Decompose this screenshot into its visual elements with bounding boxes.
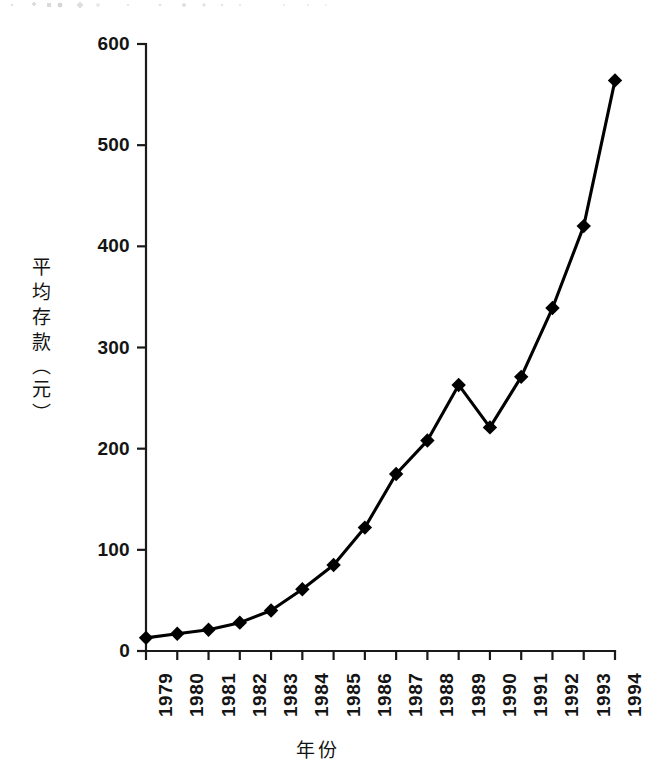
x-axis-ticks <box>146 651 615 660</box>
chart-figure: 0100200300400500600 19791980198119821983… <box>0 0 671 773</box>
y-axis-title-char: ︶ <box>26 402 56 424</box>
y-axis-tick-label: 300 <box>52 337 130 359</box>
y-axis-title-char: 元 <box>26 377 56 402</box>
data-point-marker <box>233 615 247 629</box>
data-point-marker <box>545 301 559 315</box>
y-axis-title-char: 均 <box>26 280 56 305</box>
x-axis-tick-label: 1986 <box>374 673 396 717</box>
x-axis-tick-label: 1983 <box>280 673 302 717</box>
x-axis-tick-label: 1981 <box>218 673 240 717</box>
y-axis-title-char: ︵ <box>26 355 56 377</box>
y-axis-title-char: 平 <box>26 255 56 280</box>
x-axis-tick-label: 1987 <box>405 673 427 717</box>
x-axis-tick-label: 1984 <box>311 673 333 717</box>
data-point-marker <box>139 631 153 645</box>
y-axis-title: 平均存款︵元︶ <box>26 255 56 424</box>
y-axis-tick-label: 100 <box>52 539 130 561</box>
y-axis-tick-label: 400 <box>52 235 130 257</box>
y-axis-tick-label: 0 <box>52 640 130 662</box>
data-point-markers <box>139 73 622 645</box>
data-point-marker <box>577 219 591 233</box>
y-axis-ticks <box>137 44 146 651</box>
y-axis-title-char: 款 <box>26 330 56 355</box>
x-axis-tick-label: 1989 <box>468 673 490 717</box>
y-axis-tick-label: 600 <box>52 33 130 55</box>
y-axis-title-char: 存 <box>26 305 56 330</box>
y-axis-tick-label: 200 <box>52 438 130 460</box>
x-axis-tick-label: 1979 <box>155 673 177 717</box>
x-axis-title: 年份 <box>296 735 340 762</box>
y-axis-tick-label: 500 <box>52 134 130 156</box>
data-point-marker <box>514 370 528 384</box>
x-axis-tick-label: 1990 <box>499 673 521 717</box>
data-series-line <box>146 80 615 637</box>
x-axis-tick-label: 1991 <box>530 673 552 717</box>
x-axis-tick-label: 1992 <box>561 673 583 717</box>
x-axis-tick-label: 1980 <box>186 673 208 717</box>
data-point-marker <box>201 623 215 637</box>
x-axis-tick-label: 1982 <box>249 673 271 717</box>
x-axis-tick-label: 1988 <box>436 673 458 717</box>
x-axis-tick-label: 1993 <box>593 673 615 717</box>
data-point-marker <box>170 627 184 641</box>
x-axis-tick-label: 1994 <box>624 673 646 717</box>
data-point-marker <box>608 73 622 87</box>
x-axis-tick-label: 1985 <box>343 673 365 717</box>
